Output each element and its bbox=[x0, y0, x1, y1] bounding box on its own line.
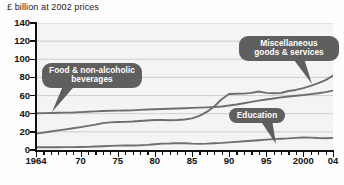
x-tick-label: 2000 bbox=[293, 155, 314, 166]
x-tick-mark bbox=[51, 151, 52, 155]
x-tick-mark bbox=[88, 151, 89, 155]
x-tick-mark bbox=[281, 151, 282, 155]
x-tick-mark bbox=[244, 151, 245, 155]
x-tick-mark bbox=[326, 151, 327, 155]
x-tick-mark bbox=[140, 151, 141, 155]
x-tick-mark bbox=[274, 151, 275, 155]
x-tick-mark bbox=[170, 151, 171, 155]
y-tick-mark bbox=[30, 149, 35, 150]
x-tick-label: 85 bbox=[187, 155, 198, 166]
x-tick-mark bbox=[185, 151, 186, 155]
x-tick-mark bbox=[177, 151, 178, 155]
x-tick-label: 04 bbox=[328, 155, 339, 166]
x-tick-mark bbox=[73, 151, 74, 155]
x-tick-mark bbox=[222, 151, 223, 155]
y-tick-mark bbox=[30, 22, 35, 23]
callout-food-and-beverages: Food & non-alcoholic beverages bbox=[42, 63, 142, 88]
x-tick-label: 95 bbox=[261, 155, 272, 166]
series-line-food-non-alcoholic-beverages bbox=[36, 91, 333, 114]
y-tick-label: 140 bbox=[0, 17, 30, 28]
x-tick-mark bbox=[103, 151, 104, 155]
x-tick-mark bbox=[110, 151, 111, 155]
x-tick-label: 70 bbox=[75, 155, 86, 166]
y-tick-label: 0 bbox=[0, 144, 30, 155]
x-tick-mark bbox=[214, 151, 215, 155]
x-tick-mark bbox=[199, 151, 200, 155]
y-tick-mark bbox=[30, 131, 35, 132]
callout-education: Education bbox=[229, 108, 285, 123]
y-tick-label: 100 bbox=[0, 53, 30, 64]
x-tick-mark bbox=[207, 151, 208, 155]
chart-title: £ billion at 2002 prices bbox=[7, 2, 99, 13]
y-tick-mark bbox=[30, 113, 35, 114]
x-tick-mark bbox=[133, 151, 134, 155]
y-tick-label: 60 bbox=[0, 90, 30, 101]
x-tick-label: 1964 bbox=[25, 155, 46, 166]
x-tick-mark bbox=[125, 151, 126, 155]
x-tick-mark bbox=[251, 151, 252, 155]
y-tick-label: 80 bbox=[0, 71, 30, 82]
y-tick-mark bbox=[30, 95, 35, 96]
x-tick-mark bbox=[66, 151, 67, 155]
x-tick-label: 75 bbox=[112, 155, 123, 166]
x-tick-mark bbox=[162, 151, 163, 155]
x-tick-mark bbox=[236, 151, 237, 155]
y-tick-label: 40 bbox=[0, 108, 30, 119]
x-tick-label: 90 bbox=[224, 155, 235, 166]
y-tick-label: 120 bbox=[0, 35, 30, 46]
y-tick-mark bbox=[30, 77, 35, 78]
x-tick-label: 80 bbox=[150, 155, 161, 166]
x-tick-mark bbox=[58, 151, 59, 155]
y-tick-mark bbox=[30, 40, 35, 41]
x-tick-mark bbox=[259, 151, 260, 155]
callout-miscellaneous-goods-services: Miscellaneous goods & services bbox=[239, 36, 339, 61]
x-tick-mark bbox=[147, 151, 148, 155]
y-axis-line bbox=[35, 22, 37, 152]
x-tick-mark bbox=[288, 151, 289, 155]
y-tick-label: 20 bbox=[0, 126, 30, 137]
x-tick-mark bbox=[318, 151, 319, 155]
x-tick-mark bbox=[95, 151, 96, 155]
series-line-education bbox=[36, 137, 333, 147]
chart-container: £ billion at 2002 prices 020406080100120… bbox=[0, 0, 344, 185]
y-tick-mark bbox=[30, 59, 35, 60]
